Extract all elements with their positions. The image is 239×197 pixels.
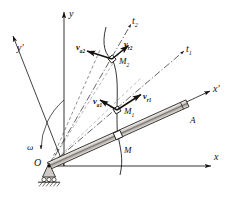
point-A-label: A [190,116,196,125]
x-axis-label: x [214,152,218,162]
point-M2-label: M2 [119,57,129,68]
velocity-va1-label: va1 [93,97,102,108]
relative-path-curve [104,27,122,175]
point-M1-subscript: 1 [132,112,135,118]
kinematics-figure: x y x′ y′ t1 t2 O M M1 M2 A va2 vr2 va1 … [0,0,239,197]
angular-velocity-label: ω [27,143,33,152]
point-M1-letter: M [124,106,132,116]
velocity-va2-subscript: a2 [80,48,85,54]
point-M1-label: M1 [124,107,134,118]
velocity-vr1-subscript: r1 [147,97,152,103]
t1-axis-subscript: 1 [189,49,192,56]
t1-axis-label: t1 [186,44,192,56]
velocity-vr2-label: vr2 [124,40,132,51]
origin-label: O [34,158,41,168]
point-M-label: M [124,146,132,155]
t2-axis-label: t2 [132,16,138,28]
t2-axis-subscript: 2 [135,21,138,28]
y-prime-axis-letter: y [17,42,21,53]
angular-velocity-arc [41,100,64,149]
y-prime-axis [13,36,64,166]
x-prime-axis-letter: x [213,83,217,94]
velocity-va1-subscript: a1 [97,102,102,108]
velocity-va2-label: va2 [76,43,85,54]
point-M2-letter: M [119,56,127,66]
x-prime-axis-label: x′ [213,84,220,94]
point-M2-subscript: 2 [127,62,130,68]
velocity-va1 [100,100,117,110]
velocity-vr2-subscript: r2 [128,45,133,51]
velocity-va2 [87,51,112,59]
y-axis-label: y [69,9,73,19]
velocity-vr1-label: vr1 [143,92,151,103]
y-prime-axis-label: y′ [17,43,24,53]
